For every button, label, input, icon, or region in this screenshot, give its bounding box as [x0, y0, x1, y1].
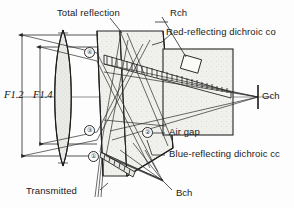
- objective-lens: [55, 30, 72, 166]
- label-f-number-outer: F1.2: [4, 90, 24, 101]
- label-transmitted: Transmitted: [26, 186, 77, 196]
- marker-1: ①: [88, 151, 99, 162]
- label-gch: Gch: [262, 91, 279, 101]
- label-rch: Rch: [170, 8, 187, 18]
- label-red-reflecting-dichroic: Red-reflecting dichroic co: [166, 27, 276, 37]
- label-air-gap: Air gap: [169, 127, 200, 137]
- label-blue-reflecting-dichroic: Blue-reflecting dichroic cc: [169, 149, 280, 159]
- marker-2: ②: [142, 127, 153, 138]
- label-bch: Bch: [176, 188, 192, 198]
- label-f-number-inner: F1.4: [33, 90, 53, 101]
- label-total-reflection: Total reflection: [57, 8, 120, 18]
- optical-ray-diagram: Total reflection Rch Red-reflecting dich…: [0, 0, 294, 208]
- marker-4: ④: [84, 47, 95, 58]
- marker-3: ③: [84, 125, 95, 136]
